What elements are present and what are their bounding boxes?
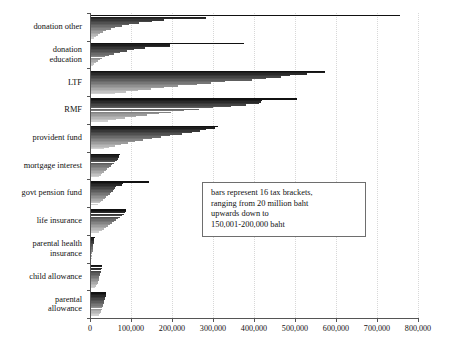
x-axis-tick-label: 200,000 — [159, 324, 185, 333]
x-axis-tick — [172, 318, 173, 322]
x-axis-tick — [336, 318, 337, 322]
bar-group — [90, 41, 418, 69]
bar-group — [90, 152, 418, 180]
bar — [90, 176, 99, 177]
bar-group — [90, 235, 418, 263]
x-axis-tick-label: 400,000 — [241, 324, 267, 333]
x-axis-tick-label: 100,000 — [118, 324, 144, 333]
category-label-0: donation other — [33, 22, 82, 32]
bar — [90, 231, 99, 232]
category-label-8: parental health insurance — [32, 239, 82, 258]
x-axis-tick-label: 800,000 — [405, 324, 431, 333]
bar — [90, 148, 104, 149]
category-label-2: LTF — [68, 78, 82, 88]
x-axis-tick — [131, 318, 132, 322]
plot-area — [90, 13, 418, 318]
y-axis-line — [90, 13, 91, 319]
bar — [90, 93, 115, 94]
category-label-6: govt pension fund — [22, 188, 82, 198]
bar-group — [90, 263, 418, 291]
category-axis-labels: donation otherdonation educationLTFRMFpr… — [0, 13, 86, 318]
gridline — [418, 13, 420, 318]
bar-group — [90, 124, 418, 152]
category-label-9: child allowance — [29, 272, 82, 282]
bar — [90, 204, 98, 205]
x-axis-tick — [377, 318, 378, 322]
bar-group — [90, 68, 418, 96]
x-axis-tick-label: 300,000 — [200, 324, 226, 333]
category-label-3: RMF — [64, 105, 82, 115]
annotation-line-4: 150,001-200,000 baht — [211, 220, 358, 231]
x-axis-tick — [295, 318, 296, 322]
x-axis-tick-label: 600,000 — [323, 324, 349, 333]
bar-group — [90, 96, 418, 124]
x-axis-tick-label: 0 — [88, 324, 92, 333]
category-label-1: donation education — [49, 45, 82, 64]
x-axis-tick-label: 700,000 — [364, 324, 390, 333]
x-axis-tick — [254, 318, 255, 322]
category-label-10: parental allowance — [48, 295, 82, 314]
annotation-line-1: bars represent 16 tax brackets, — [211, 188, 358, 199]
bar — [90, 314, 99, 315]
bar — [90, 287, 95, 288]
x-axis-tick — [418, 318, 419, 322]
bar-group — [90, 290, 418, 318]
annotation-line-2: ranging from 20 million baht — [211, 199, 358, 210]
bar-group — [90, 13, 418, 41]
x-axis-tick — [213, 318, 214, 322]
bar — [90, 120, 108, 121]
category-label-7: life insurance — [37, 216, 82, 226]
bar — [90, 37, 94, 38]
category-label-5: mortgage interest — [24, 161, 82, 171]
x-axis-tick-label: 500,000 — [282, 324, 308, 333]
x-axis-tick — [90, 318, 91, 322]
category-label-4: provident fund — [32, 133, 82, 143]
tax-deduction-bar-chart: donation otherdonation educationLTFRMFpr… — [0, 0, 449, 355]
annotation-line-3: upwards down to — [211, 209, 358, 220]
annotation-textbox: bars represent 16 tax brackets, ranging … — [202, 182, 366, 237]
